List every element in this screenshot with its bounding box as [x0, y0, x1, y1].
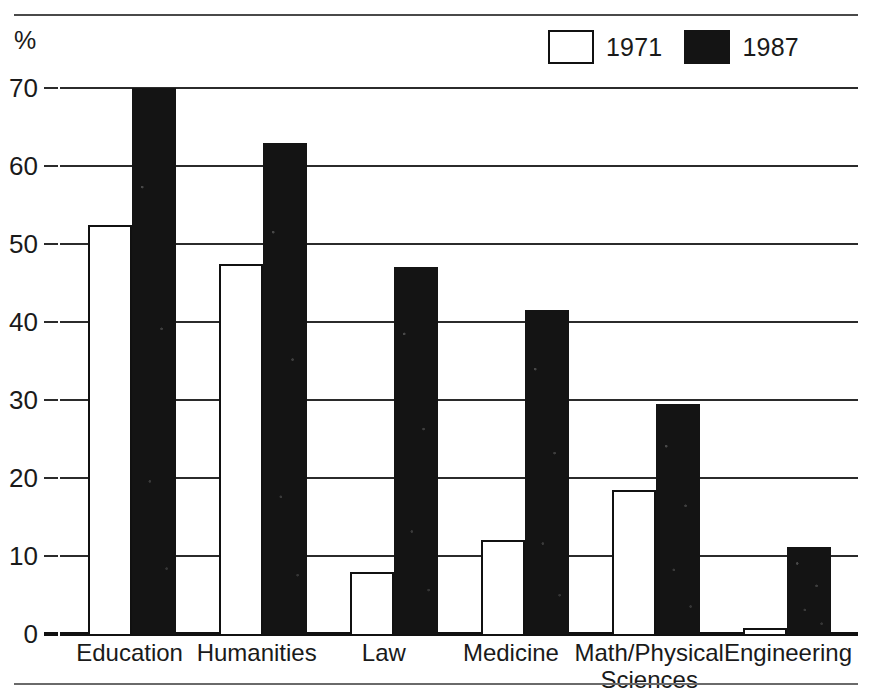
y-axis-tick-label-10: 10 — [9, 543, 38, 569]
y-axis-tick-label-30: 30 — [9, 387, 38, 413]
y-axis-tick-10 — [44, 555, 58, 557]
y-axis-tick-label-0: 0 — [24, 621, 38, 647]
bar-group — [66, 88, 197, 634]
chart-plot-area: 010203040506070 — [60, 88, 858, 634]
legend-swatch-1971-icon — [548, 30, 594, 64]
legend-entry-1987: 1987 — [684, 30, 798, 64]
y-axis-tick-label-20: 20 — [9, 465, 38, 491]
bar-1987 — [656, 404, 700, 634]
legend-entry-1971: 1971 — [548, 30, 662, 64]
bar-1987 — [132, 88, 176, 634]
y-axis-tick-40 — [44, 321, 58, 323]
bar-group — [459, 88, 590, 634]
bar-1987 — [525, 310, 569, 634]
bottom-divider-rule — [14, 683, 858, 685]
legend-label-1971: 1971 — [606, 35, 662, 60]
y-axis-tick-20 — [44, 477, 58, 479]
y-axis-tick-50 — [44, 243, 58, 245]
bar-1971 — [481, 540, 525, 634]
bar-group — [721, 88, 852, 634]
bar-1971 — [612, 490, 656, 634]
x-axis-label: Law — [320, 640, 447, 694]
y-axis-tick-0 — [44, 632, 58, 636]
legend-swatch-1987-icon — [684, 30, 730, 64]
bar-1987 — [394, 267, 438, 634]
x-axis-label: Engineering — [724, 640, 852, 694]
chart-legend: 1971 1987 — [548, 30, 799, 64]
x-axis-category-labels: EducationHumanitiesLawMedicineMath/Physi… — [60, 640, 858, 694]
x-axis-label: Humanities — [193, 640, 320, 694]
legend-label-1987: 1987 — [742, 35, 798, 60]
y-axis-unit-label: % — [14, 28, 36, 53]
x-axis-label: Education — [66, 640, 193, 694]
x-axis-label: Medicine — [447, 640, 574, 694]
bar-1987 — [787, 547, 831, 634]
bar-1971 — [219, 264, 263, 635]
y-axis-tick-60 — [44, 165, 58, 167]
y-axis-tick-label-60: 60 — [9, 153, 38, 179]
bar-1971 — [743, 628, 787, 634]
bar-group — [590, 88, 721, 634]
bar-1971 — [350, 572, 394, 634]
bar-group — [328, 88, 459, 634]
y-axis-tick-label-50: 50 — [9, 231, 38, 257]
y-axis-tick-30 — [44, 399, 58, 401]
bar-group — [197, 88, 328, 634]
y-axis-tick-label-40: 40 — [9, 309, 38, 335]
chart-bars — [60, 88, 858, 634]
top-divider-rule — [14, 14, 858, 16]
y-axis-tick-70 — [44, 87, 58, 89]
y-axis-tick-label-70: 70 — [9, 75, 38, 101]
bar-1987 — [263, 143, 307, 634]
bar-1971 — [88, 225, 132, 635]
x-axis-label: Math/Physical Sciences — [575, 640, 724, 694]
